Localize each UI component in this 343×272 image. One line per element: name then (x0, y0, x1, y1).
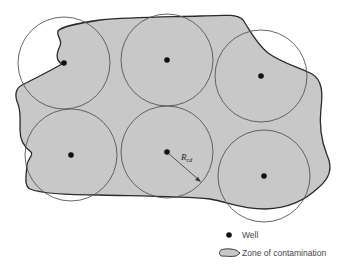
contamination-zone (16, 15, 330, 209)
legend-well-label: Well (242, 230, 258, 240)
contamination-well-diagram: Rcd Well Zone of contamination (0, 0, 343, 272)
well-icon-2 (164, 57, 170, 63)
well-icon-6 (261, 173, 267, 179)
legend: Well Zone of contamination (220, 230, 327, 258)
legend-well-icon (226, 232, 232, 238)
well-icon-4 (68, 152, 74, 158)
legend-zone-label: Zone of contamination (242, 248, 326, 258)
well-icon-1 (61, 60, 67, 66)
well-icon-3 (258, 73, 264, 79)
radius-label-subscript: cd (187, 157, 194, 163)
legend-zone-icon (220, 249, 241, 257)
